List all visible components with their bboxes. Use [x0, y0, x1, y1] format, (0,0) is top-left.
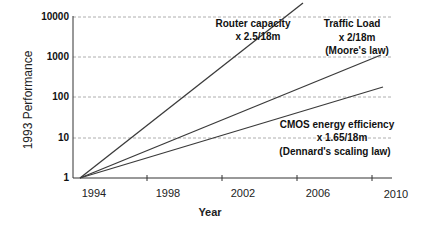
x-axis-title: Year — [198, 206, 222, 218]
y-axis-title: 1993 Performance — [21, 50, 35, 149]
xtick-1998: 1998 — [156, 187, 180, 199]
traffic-label: Traffic Load — [324, 18, 381, 29]
traffic-rate: x 2/18m — [339, 32, 376, 43]
ytick-1: 1 — [63, 172, 69, 183]
series-router-capacity — [80, 3, 303, 178]
series-traffic-load — [80, 55, 381, 178]
xtick-2010: 2010 — [384, 188, 408, 200]
router-label: Router capacity — [215, 18, 290, 29]
cmos-rate: x 1.65/18m — [317, 132, 368, 143]
traffic-note: (Moore's law) — [325, 45, 389, 56]
xtick-2002: 2002 — [231, 187, 255, 199]
xtick-1994: 1994 — [82, 187, 106, 199]
router-rate: x 2.5/18m — [235, 31, 280, 42]
cmos-note: (Dennard's scaling law) — [279, 146, 390, 157]
xtick-2006: 2006 — [306, 187, 330, 199]
ytick-10000: 10000 — [41, 11, 69, 22]
ytick-100: 100 — [52, 91, 69, 102]
cmos-label: CMOS energy efficiency — [280, 119, 395, 130]
performance-chart: 10000 1000 100 10 1 1994 1998 2002 2006 … — [0, 0, 424, 229]
ytick-10: 10 — [58, 132, 70, 143]
ytick-1000: 1000 — [47, 51, 70, 62]
